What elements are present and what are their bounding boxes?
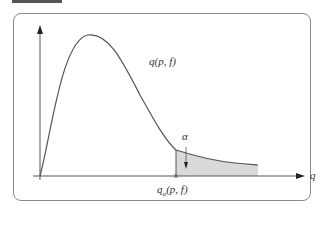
critical-point-marker bbox=[174, 174, 178, 178]
critical-label-tail: (p, f) bbox=[166, 183, 187, 195]
alpha-label: α bbox=[182, 130, 188, 142]
x-axis-arrowhead-icon bbox=[296, 173, 305, 179]
y-axis-arrowhead-icon bbox=[37, 25, 43, 34]
critical-value-label: qα(p, f) bbox=[157, 183, 188, 198]
x-axis-label: q bbox=[310, 169, 316, 181]
curve-label: q(p, f) bbox=[149, 55, 176, 67]
